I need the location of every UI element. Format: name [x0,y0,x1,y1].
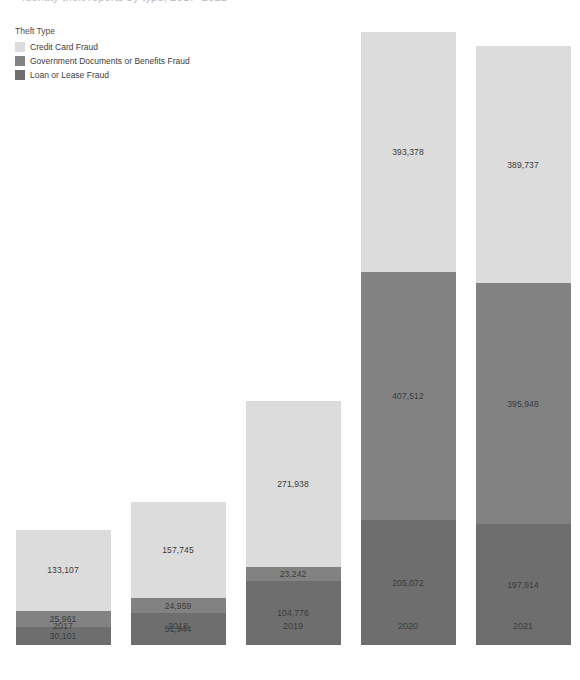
bar-segment-value-label: 395,948 [507,399,538,409]
bar-segment-value-label: 24,959 [165,601,192,611]
bar-segment[interactable]: 23,242 [246,567,341,581]
bar-segment[interactable]: 24,959 [131,598,226,613]
bar-segment-value-label: 30,101 [50,631,77,641]
bar-segment[interactable]: 271,938 [246,401,341,567]
bar-group: 389,737395,948197,9142021 [476,32,571,645]
stacked-bar[interactable]: 271,93823,242104,776 [246,401,341,645]
bar-segment-value-label: 271,938 [277,479,308,489]
x-axis-tick-label: 2019 [246,621,341,631]
bar-segment-value-label: 407,512 [392,391,423,401]
bar-segment-value-label: 197,914 [507,580,538,590]
stacked-bar[interactable]: 393,378407,512205,072 [361,32,456,645]
bar-segment[interactable]: 133,107 [16,530,111,611]
bar-group: 157,74524,95951,9442018 [131,32,226,645]
bar-segment[interactable]: 157,745 [131,502,226,598]
bar-segment[interactable]: 389,737 [476,46,571,283]
bar-segment[interactable]: 395,948 [476,283,571,524]
bar-group: 271,93823,242104,7762019 [246,32,341,645]
x-axis-tick-label: 2017 [16,621,111,631]
bar-segment-value-label: 393,378 [392,147,423,157]
x-axis-tick-label: 2021 [476,621,571,631]
stacked-bar[interactable]: 389,737395,948197,914 [476,46,571,645]
bar-group: 393,378407,512205,0722020 [361,32,456,645]
bar-segment[interactable]: 393,378 [361,32,456,272]
x-axis-tick-label: 2018 [131,621,226,631]
bar-segment-value-label: 157,745 [162,545,193,555]
bar-segment-value-label: 23,242 [280,569,307,579]
bar-segment-value-label: 104,776 [277,608,308,618]
bar-segment-value-label: 205,072 [392,578,423,588]
x-axis-tick-label: 2020 [361,621,456,631]
bar-segment-value-label: 133,107 [47,565,78,575]
bar-group: 133,10725,96130,1012017 [16,32,111,645]
bar-segment[interactable]: 407,512 [361,272,456,520]
stacked-bar-chart-plot-area: 133,10725,96130,1012017157,74524,95951,9… [0,0,580,680]
bar-segment-value-label: 389,737 [507,160,538,170]
bar-segment[interactable]: 104,776 [246,581,341,645]
